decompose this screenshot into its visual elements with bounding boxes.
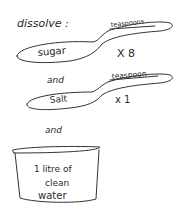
container-text-line2: clean [45,178,69,188]
salt-unit-label: teaspoon [111,69,147,81]
and-connector-1: and [47,75,64,85]
sugar-label: sugar [37,45,67,58]
container-text-line1: 1 litre of [34,164,73,174]
sugar-quantity: X 8 [117,47,135,60]
ors-recipe-diagram: dissolve : teaspoons sugar X 8 and teasp… [0,0,189,210]
salt-label: Salt [49,93,68,105]
dissolve-label: dissolve : [17,17,69,30]
and-connector-2: and [45,125,62,135]
salt-quantity: x 1 [115,94,130,105]
container-text-line3: water [38,190,67,201]
